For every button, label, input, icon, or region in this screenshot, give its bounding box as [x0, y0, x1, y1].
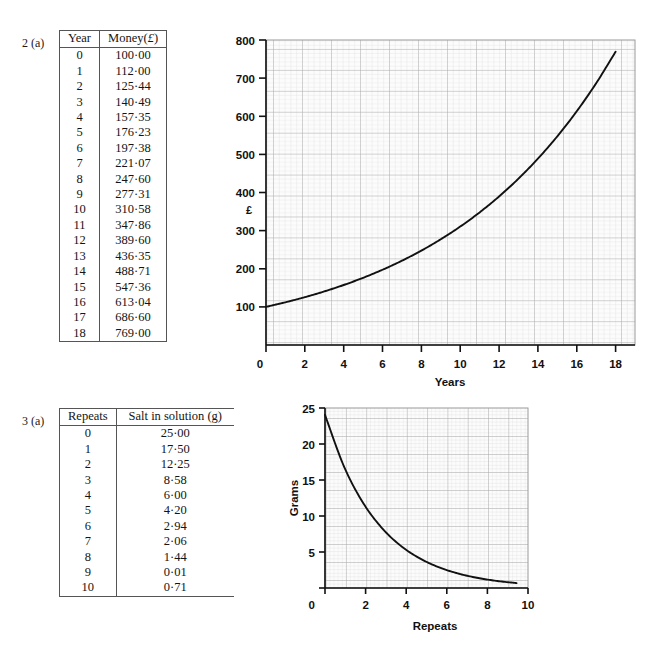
table-row: 54·20: [60, 503, 234, 518]
cell-value: 488·71: [100, 264, 167, 279]
table-row: 62·94: [60, 519, 234, 534]
table-row: 12389·60: [60, 233, 167, 248]
money-header-suffix: ): [154, 31, 158, 45]
table-row: 7221·07: [60, 156, 167, 171]
y-tick-label-15: 15: [302, 475, 315, 487]
x-tick-label-10: 10: [454, 358, 467, 370]
cell-key: 18: [60, 326, 100, 342]
y-tick-label-10: 10: [302, 511, 315, 523]
cell-value: 0·71: [116, 580, 234, 596]
y-tick-label-600: 600: [236, 111, 255, 123]
y-tick-label-400: 400: [236, 187, 255, 199]
x-tick-label-14: 14: [532, 358, 545, 370]
table-row: 81·44: [60, 550, 234, 565]
cell-key: 2: [60, 457, 117, 472]
table-row: 10310·58: [60, 202, 167, 217]
cell-key: 8: [60, 172, 100, 187]
cell-key: 0: [60, 48, 100, 64]
table-row: 1112·00: [60, 64, 167, 79]
y-tick-label-800: 800: [236, 35, 255, 47]
x-tick-label-6: 6: [379, 358, 385, 370]
salt-decay-svg: 25 20 15 10 5 0 Grams 2 4 6 8 10 Repeats: [285, 400, 575, 650]
y-axis-ticks: [319, 408, 325, 588]
table-row: 38·58: [60, 473, 234, 488]
compound-growth-chart: 800 700 600 500 400 300 200 100 £: [215, 28, 665, 388]
cell-value: 176·23: [100, 125, 167, 140]
table-row: 6197·38: [60, 141, 167, 156]
cell-value: 247·60: [100, 172, 167, 187]
cell-key: 4: [60, 488, 117, 503]
table-row: 46·00: [60, 488, 234, 503]
money-table: Year Money(£) 0100·001112·002125·443140·…: [59, 30, 167, 342]
cell-value: 389·60: [100, 233, 167, 248]
cell-value: 112·00: [100, 64, 167, 79]
cell-key: 9: [60, 187, 100, 202]
y-tick-label-25: 25: [302, 403, 315, 415]
cell-key: 11: [60, 218, 100, 233]
x-tick-label-8: 8: [484, 599, 491, 611]
cell-key: 15: [60, 280, 100, 295]
cell-value: 310·58: [100, 202, 167, 217]
cell-value: 613·04: [100, 295, 167, 310]
table-row: 212·25: [60, 457, 234, 472]
x-tick-label-4: 4: [340, 358, 347, 370]
y-tick-label-200: 200: [236, 263, 255, 275]
x-tick-label-10: 10: [522, 599, 535, 611]
cell-key: 0: [60, 426, 117, 442]
table-row: 9277·31: [60, 187, 167, 202]
cell-value: 221·07: [100, 156, 167, 171]
y-tick-label-500: 500: [236, 149, 255, 161]
x-tick-label-12: 12: [493, 358, 506, 370]
cell-value: 436·35: [100, 249, 167, 264]
table-row: 0100·00: [60, 48, 167, 64]
y-tick-label-300: 300: [236, 225, 255, 237]
cell-key: 3: [60, 95, 100, 110]
cell-value: 686·60: [100, 310, 167, 325]
table-row: 90·01: [60, 565, 234, 580]
x-tick-label-0: 0: [257, 358, 263, 370]
table-row: 2125·44: [60, 79, 167, 94]
table-row: 3140·49: [60, 95, 167, 110]
cell-key: 6: [60, 141, 100, 156]
x-axis-title: Years: [435, 376, 466, 388]
table-row: 15547·36: [60, 280, 167, 295]
table-row: 17686·60: [60, 310, 167, 325]
cell-key: 10: [60, 580, 117, 596]
cell-value: 25·00: [116, 426, 234, 442]
table-row: 117·50: [60, 442, 234, 457]
table-row: 025·00: [60, 426, 234, 442]
cell-key: 10: [60, 202, 100, 217]
y-tick-label-100: 100: [236, 301, 255, 313]
exercise-label-3: 3 (a): [22, 414, 44, 429]
cell-value: 197·38: [100, 141, 167, 156]
y-axis-title: Grams: [288, 480, 300, 516]
cell-key: 2: [60, 79, 100, 94]
cell-value: 100·00: [100, 48, 167, 64]
cell-value: 547·36: [100, 280, 167, 295]
x-tick-label-8: 8: [418, 358, 425, 370]
table-row: 11347·86: [60, 218, 167, 233]
column-header-repeats: Repeats: [60, 409, 117, 426]
x-tick-label-4: 4: [403, 599, 410, 611]
cell-value: 6·00: [116, 488, 234, 503]
cell-key: 1: [60, 442, 117, 457]
table-row: 100·71: [60, 580, 234, 596]
y-axis-ticks: [259, 40, 266, 307]
cell-value: 2·94: [116, 519, 234, 534]
cell-value: 8·58: [116, 473, 234, 488]
table-row: 13436·35: [60, 249, 167, 264]
cell-value: 140·49: [100, 95, 167, 110]
column-header-salt: Salt in solution (g): [116, 409, 234, 426]
cell-value: 17·50: [116, 442, 234, 457]
x-tick-label-18: 18: [609, 358, 622, 370]
cell-key: 9: [60, 565, 117, 580]
compound-growth-svg: 800 700 600 500 400 300 200 100 £: [215, 28, 665, 388]
salt-table: Repeats Salt in solution (g) 025·00117·5…: [59, 408, 234, 597]
x-tick-label-2: 2: [302, 358, 308, 370]
cell-key: 13: [60, 249, 100, 264]
cell-value: 157·35: [100, 110, 167, 125]
y-tick-label-20: 20: [302, 439, 315, 451]
x-axis-title: Repeats: [413, 620, 458, 632]
y-axis-title: £: [246, 204, 252, 216]
table-row: 5176·23: [60, 125, 167, 140]
